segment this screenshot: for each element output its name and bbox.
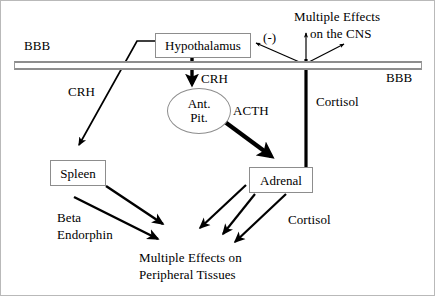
node-hypothalamus[interactable]: Hypothalamus: [155, 33, 251, 58]
label-peripheral-effects-line1: Multiple Effects on: [139, 251, 242, 265]
bbb-label-left: BBB: [24, 39, 50, 53]
node-spleen[interactable]: Spleen: [50, 160, 106, 186]
node-anterior-pituitary[interactable]: Ant. Pit.: [167, 88, 231, 134]
label-cortisol-lower: Cortisol: [288, 213, 331, 227]
label-acth: ACTH: [233, 104, 269, 118]
arrow-ant-pit-to-adrenal-acth: [225, 122, 271, 156]
label-beta-endorphin-line2: Endorphin: [57, 228, 113, 242]
node-anterior-pituitary-label-line2: Pit.: [190, 111, 208, 125]
node-adrenal-label: Adrenal: [260, 174, 302, 187]
node-anterior-pituitary-label-line1: Ant.: [188, 97, 211, 111]
label-cns-effects-line2: on the CNS: [310, 27, 372, 41]
node-hypothalamus-label: Hypothalamus: [165, 39, 241, 52]
blood-brain-barrier-bar: [14, 61, 422, 70]
label-cns-effects-line1: Multiple Effects: [294, 10, 380, 24]
label-peripheral-effects-line2: Peripheral Tissues: [139, 268, 236, 282]
node-spleen-label: Spleen: [60, 167, 95, 180]
bbb-label-right: BBB: [386, 71, 412, 85]
label-crh-center: CRH: [201, 72, 228, 86]
label-crh-left: CRH: [68, 85, 95, 99]
label-beta-endorphin-line1: Beta: [57, 211, 81, 225]
label-negative-feedback: (-): [263, 31, 276, 45]
label-cortisol-upper: Cortisol: [316, 95, 359, 109]
hpa-axis-diagram: Hypothalamus Ant. Pit. Spleen Adrenal BB…: [0, 0, 436, 297]
arrow-adrenal-to-peripheral-3: [235, 194, 286, 242]
node-adrenal[interactable]: Adrenal: [249, 167, 313, 193]
arrow-adrenal-to-peripheral-1: [200, 185, 246, 228]
